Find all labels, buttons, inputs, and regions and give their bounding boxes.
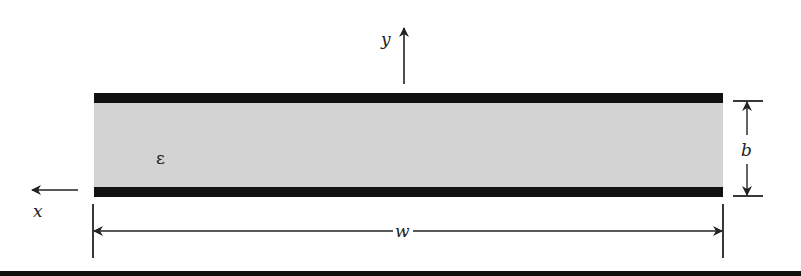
plate-separation-label: b — [741, 140, 752, 160]
dielectric-region — [94, 101, 723, 189]
bottom-plate — [94, 187, 723, 197]
waveguide-diagram: y x ε b w — [0, 0, 801, 276]
bottom-border — [0, 271, 801, 276]
x-axis-label: x — [33, 201, 43, 221]
permittivity-label: ε — [156, 148, 165, 168]
y-axis-label: y — [380, 29, 391, 49]
top-plate — [94, 93, 723, 103]
plate-width-label: w — [395, 221, 410, 241]
